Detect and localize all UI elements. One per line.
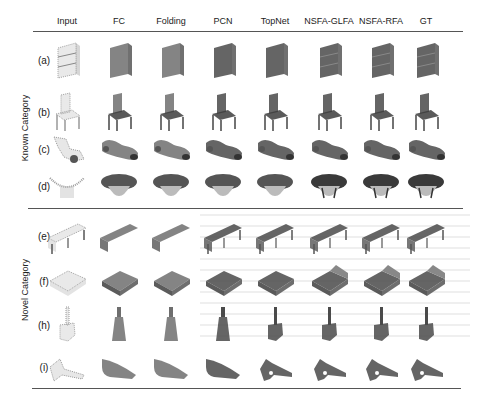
bookshelf-icon	[148, 40, 194, 80]
chair-pointcloud-completion	[96, 92, 142, 132]
bed-pointcloud-completion	[148, 261, 194, 301]
bookshelf-icon	[44, 40, 90, 80]
pistol-pointcloud-completion	[96, 347, 142, 387]
group-label: Novel Category	[20, 259, 30, 321]
bench-icon	[200, 216, 246, 256]
bed-icon	[200, 261, 246, 301]
bed-icon	[403, 261, 449, 301]
car-pointcloud-input	[44, 129, 90, 169]
chair-icon	[96, 92, 142, 132]
car-pointcloud-completion	[148, 129, 194, 169]
guitar-icon	[358, 305, 404, 345]
chair-pointcloud-completion	[252, 92, 298, 132]
guitar-pointcloud-completion	[306, 305, 352, 345]
chair-icon	[403, 92, 449, 132]
chair-pointcloud-completion	[306, 92, 352, 132]
bed-icon	[44, 261, 90, 301]
bookshelf-pointcloud-completion	[96, 40, 142, 80]
bed-icon	[358, 261, 404, 301]
bookshelf-icon	[96, 40, 142, 80]
lamp-pointcloud-completion	[148, 166, 194, 206]
lamp-pointcloud-completion	[96, 166, 142, 206]
bench-pointcloud-completion	[148, 216, 194, 256]
pistol-pointcloud-completion	[252, 347, 298, 387]
bookshelf-icon	[252, 40, 298, 80]
bed-icon	[252, 261, 298, 301]
guitar-icon	[252, 305, 298, 345]
guitar-pointcloud-completion	[200, 305, 246, 345]
pistol-icon	[200, 347, 246, 387]
lamp-icon	[44, 166, 90, 206]
bookshelf-icon	[200, 40, 246, 80]
bookshelf-icon	[306, 40, 352, 80]
chair-pointcloud-input	[44, 92, 90, 132]
bed-pointcloud-completion	[96, 261, 142, 301]
bench-icon	[252, 216, 298, 256]
lamp-pointcloud-completion	[252, 166, 298, 206]
car-icon	[96, 129, 142, 169]
pistol-icon	[96, 347, 142, 387]
lamp-pointcloud-completion	[306, 166, 352, 206]
chair-icon	[44, 92, 90, 132]
guitar-icon	[96, 305, 142, 345]
car-pointcloud-completion	[252, 129, 298, 169]
bench-pointcloud-completion	[252, 216, 298, 256]
car-icon	[358, 129, 404, 169]
chair-icon	[252, 92, 298, 132]
bench-icon	[306, 216, 352, 256]
column-header: FC	[113, 16, 125, 26]
bed-pointcloud-input	[44, 261, 90, 301]
chair-icon	[200, 92, 246, 132]
pistol-pointcloud-ground-truth	[403, 347, 449, 387]
column-header: Input	[57, 16, 77, 26]
lamp-pointcloud-completion	[358, 166, 404, 206]
lamp-icon	[358, 166, 404, 206]
lamp-icon	[252, 166, 298, 206]
guitar-icon	[200, 305, 246, 345]
car-pointcloud-completion	[358, 129, 404, 169]
bookshelf-pointcloud-completion	[358, 40, 404, 80]
bed-pointcloud-completion	[358, 261, 404, 301]
lamp-icon	[306, 166, 352, 206]
group-label: Known Category	[20, 95, 30, 162]
bench-icon	[358, 216, 404, 256]
bed-icon	[96, 261, 142, 301]
car-pointcloud-ground-truth	[403, 129, 449, 169]
bench-icon	[148, 216, 194, 256]
chair-pointcloud-completion	[358, 92, 404, 132]
car-pointcloud-completion	[200, 129, 246, 169]
chair-icon	[358, 92, 404, 132]
lamp-icon	[200, 166, 246, 206]
pistol-icon	[148, 347, 194, 387]
column-header: Folding	[156, 16, 186, 26]
pistol-icon	[403, 347, 449, 387]
pistol-pointcloud-completion	[358, 347, 404, 387]
guitar-pointcloud-completion	[96, 305, 142, 345]
column-header: NSFA-RFA	[359, 16, 403, 26]
bookshelf-pointcloud-completion	[306, 40, 352, 80]
guitar-icon	[44, 305, 90, 345]
bench-pointcloud-completion	[200, 216, 246, 256]
chair-pointcloud-completion	[148, 92, 194, 132]
column-header: PCN	[213, 16, 232, 26]
bookshelf-pointcloud-completion	[252, 40, 298, 80]
bookshelf-pointcloud-input	[44, 40, 90, 80]
pistol-icon	[306, 347, 352, 387]
chair-pointcloud-ground-truth	[403, 92, 449, 132]
bookshelf-icon	[358, 40, 404, 80]
guitar-icon	[148, 305, 194, 345]
lamp-pointcloud-completion	[200, 166, 246, 206]
chair-pointcloud-completion	[200, 92, 246, 132]
column-header: NSFA-GLFA	[304, 16, 354, 26]
lamp-icon	[148, 166, 194, 206]
column-header: GT	[420, 16, 433, 26]
bench-icon	[96, 216, 142, 256]
lamp-icon	[96, 166, 142, 206]
bench-pointcloud-completion	[96, 216, 142, 256]
bottom-rule	[32, 388, 461, 389]
chair-icon	[306, 92, 352, 132]
pistol-pointcloud-input	[44, 347, 90, 387]
bed-pointcloud-completion	[252, 261, 298, 301]
guitar-pointcloud-input	[44, 305, 90, 345]
bookshelf-pointcloud-ground-truth	[403, 40, 449, 80]
